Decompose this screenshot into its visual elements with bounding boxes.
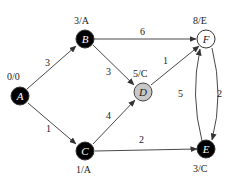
graph-diagram: 3 1 6 3 4 2 1 5 2 A 0/0 B 3/A C 1/A D 5/… — [0, 0, 239, 181]
edge-a-c — [28, 103, 76, 144]
edge-c-d — [93, 100, 135, 144]
edge-d-f — [151, 46, 199, 85]
svg-text:E: E — [202, 143, 210, 155]
node-b: B — [76, 30, 94, 48]
node-e-label: 3/C — [193, 163, 208, 174]
svg-text:C: C — [81, 145, 89, 157]
node-c-label: 1/A — [76, 164, 92, 175]
weight-f-e: 2 — [217, 88, 222, 99]
node-b-label: 3/A — [74, 15, 90, 26]
weight-a-b: 3 — [45, 57, 50, 68]
node-f-label: 8/E — [193, 15, 207, 26]
svg-text:F: F — [202, 33, 210, 45]
node-d-label: 5/C — [133, 68, 148, 79]
edge-b-d — [93, 45, 134, 85]
weight-e-f: 5 — [178, 88, 183, 99]
node-a: A — [11, 87, 29, 105]
edge-a-b — [27, 46, 76, 89]
weight-b-d: 3 — [106, 66, 111, 77]
weight-b-f: 6 — [140, 26, 145, 37]
node-a-label: 0/0 — [7, 71, 20, 82]
svg-text:A: A — [16, 90, 24, 102]
node-d: D — [134, 83, 152, 101]
edge-c-e — [95, 149, 197, 151]
weight-c-e: 2 — [139, 134, 144, 145]
weight-a-c: 1 — [46, 123, 51, 134]
node-f: F — [197, 30, 215, 48]
svg-text:D: D — [138, 86, 147, 98]
weight-d-f: 1 — [163, 55, 168, 66]
node-e: E — [197, 140, 215, 158]
edge-e-f — [195, 49, 202, 141]
weight-c-d: 4 — [106, 110, 111, 121]
node-c: C — [76, 142, 94, 160]
svg-text:B: B — [82, 33, 89, 45]
